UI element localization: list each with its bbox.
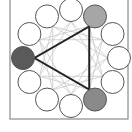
highlighted-node-5-oclock (84, 88, 107, 111)
node-10-oclock (18, 23, 41, 46)
node-4-oclock (101, 71, 124, 94)
highlighted-node-1-oclock (84, 5, 107, 28)
node-3-oclock (108, 47, 131, 70)
node-6-oclock (60, 95, 83, 118)
highlighted-node-9-oclock (12, 47, 35, 70)
chord-lines (35, 22, 108, 95)
node-ring (12, 0, 131, 118)
node-11-oclock (36, 5, 59, 28)
highlight-triangle (35, 26, 90, 89)
node-12-oclock (60, 0, 83, 22)
node-7-oclock (36, 88, 59, 111)
circle-network-diagram (0, 0, 132, 132)
node-2-oclock (101, 23, 124, 46)
node-8-oclock (18, 71, 41, 94)
